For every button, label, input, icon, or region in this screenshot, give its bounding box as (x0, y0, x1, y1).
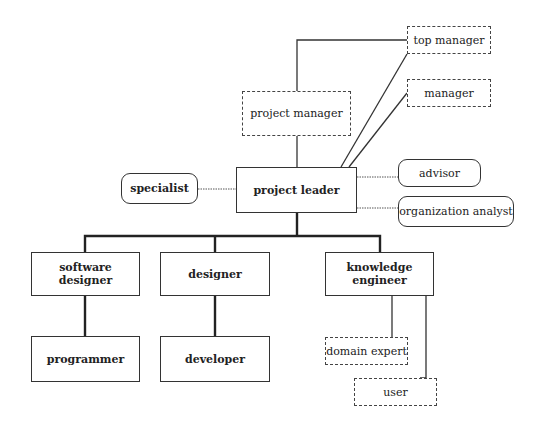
node-label: project leader (253, 184, 339, 197)
node-organization-analyst: organization analyst (398, 196, 514, 227)
node-software-designer: software designer (31, 252, 140, 296)
node-label: designer (188, 268, 242, 281)
node-manager: manager (407, 79, 491, 107)
node-label: project manager (250, 107, 342, 120)
node-label: domain expert (326, 345, 407, 358)
node-user: user (354, 378, 437, 406)
node-domain-expert: domain expert (325, 337, 408, 365)
node-project-manager: project manager (242, 91, 351, 136)
node-programmer: programmer (31, 336, 140, 382)
node-project-leader: project leader (236, 167, 357, 213)
node-label: programmer (47, 353, 125, 366)
node-label: manager (424, 87, 473, 100)
node-label: user (383, 386, 408, 399)
node-specialist: specialist (121, 173, 198, 204)
node-label: top manager (413, 34, 484, 47)
node-label: developer (185, 353, 245, 366)
node-knowledge-engineer: knowledge engineer (325, 252, 434, 296)
node-label: specialist (130, 182, 189, 195)
node-designer: designer (160, 252, 270, 296)
node-top-manager: top manager (407, 26, 491, 54)
node-label: knowledge engineer (326, 261, 433, 287)
node-label: software designer (51, 261, 121, 287)
node-label: advisor (419, 167, 460, 180)
node-developer: developer (160, 336, 270, 382)
node-advisor: advisor (398, 159, 481, 187)
node-label: organization analyst (399, 205, 513, 218)
